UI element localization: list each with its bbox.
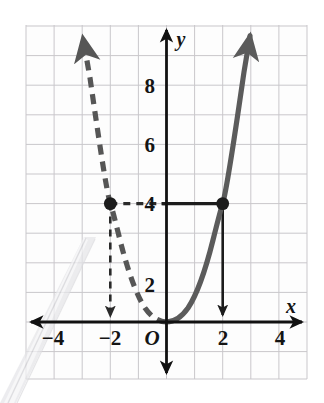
y-axis-label: y [175,28,186,51]
coordinate-plane: −4 −2 2 4 2 4 6 8 O x y [0,0,324,403]
x-tick-label-4: 4 [275,326,286,350]
x-axis-label: x [285,295,296,317]
y-tick-label-8: 8 [145,74,156,98]
y-tick-label-6: 6 [145,133,156,157]
origin-label: O [144,326,159,350]
point-left[interactable] [104,197,117,210]
graph-figure: −4 −2 2 4 2 4 6 8 O x y [0,0,324,403]
point-right[interactable] [216,197,229,210]
y-tick-label-4: 4 [145,192,156,216]
y-tick-label-2: 2 [145,273,156,297]
x-tick-label--2: −2 [99,326,121,350]
x-tick-label--4: −4 [42,326,65,350]
x-tick-label-2: 2 [218,326,229,350]
